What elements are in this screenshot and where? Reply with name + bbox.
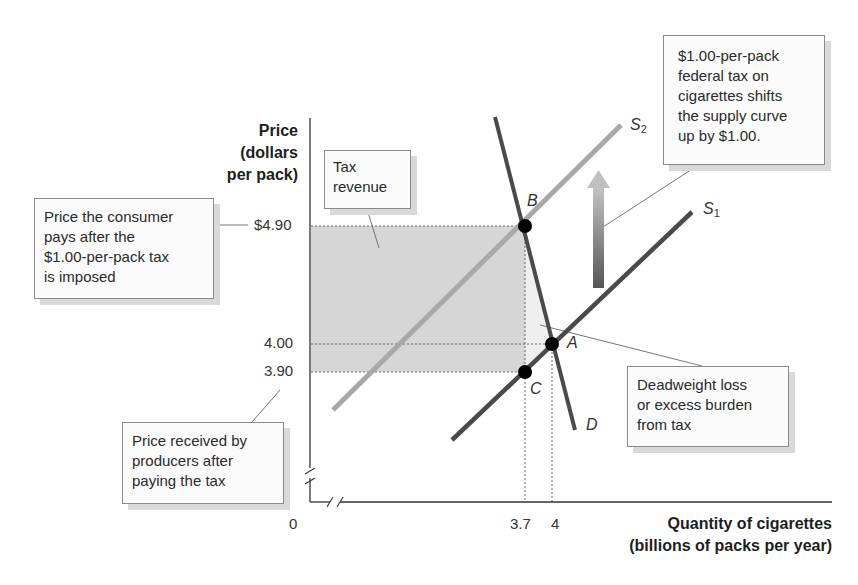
callout-line: paying the tax [132,471,274,491]
callout-line: Deadweight loss [637,375,779,395]
label-s2-sub: 2 [641,123,647,135]
callout-line: producers after [132,451,274,471]
label-s1-sub: 1 [714,207,720,219]
origin-label: 0 [289,515,297,532]
x-axis-title: Quantity of cigarettes (billions of pack… [629,513,832,557]
point-c [518,365,532,379]
callout-line: federal tax on [678,66,810,86]
y-tick-3-90: 3.90 [264,362,293,379]
y-title-line: per pack) [227,164,298,186]
y-axis-title: Price (dollars per pack) [227,120,298,186]
callout-line: Price the consumer [44,207,204,227]
label-s1: S1 [703,200,720,219]
callout-line: Price received by [132,431,274,451]
callout-line: up by $1.00. [678,126,810,146]
tax-revenue-area [311,226,525,372]
label-s2-name: S [630,116,641,133]
callout-tax-revenue: Tax revenue [324,150,411,209]
callout-line: the supply curve [678,106,810,126]
callout-line: Tax [333,157,402,177]
shift-up-arrow-icon [587,170,610,288]
y-tick-4-90: $4.90 [254,216,292,233]
x-title-line: (billions of packs per year) [629,535,832,557]
callout-line: cigarettes shifts [678,86,810,106]
callout-line: from tax [637,415,779,435]
y-title-line: Price [227,120,298,142]
label-d: D [586,416,598,434]
x-tick-3-7: 3.7 [510,515,531,532]
callout-line: revenue [333,177,402,197]
axis-break-icon [305,468,343,507]
label-s2: S2 [630,116,647,135]
callout-deadweight-loss: Deadweight loss or excess burden from ta… [627,366,789,447]
label-point-b: B [527,192,538,210]
callout-consumer-price: Price the consumer pays after the $1.00-… [34,198,214,299]
callout-tax-shift: $1.00-per-pack federal tax on cigarettes… [663,35,825,165]
x-title-line: Quantity of cigarettes [629,513,832,535]
label-s1-name: S [703,200,714,217]
point-b [518,219,532,233]
x-tick-4: 4 [551,515,559,532]
callout-line: is imposed [44,267,204,287]
callout-producer-price: Price received by producers after paying… [122,422,284,504]
callout-line: $1.00-per-pack [678,46,810,66]
label-point-c: C [530,380,542,398]
y-tick-4-00: 4.00 [264,334,293,351]
label-point-a: A [567,334,578,352]
callout-line: $1.00-per-pack tax [44,247,204,267]
callout-line: pays after the [44,227,204,247]
y-title-line: (dollars [227,142,298,164]
callout-line: or excess burden [637,395,779,415]
leader-producer-price [252,390,280,422]
point-a [545,337,559,351]
